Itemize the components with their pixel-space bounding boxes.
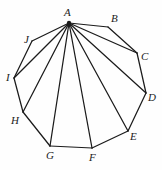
- vertex-label-d: D: [148, 92, 156, 103]
- polygon-edge-EF: [92, 131, 128, 148]
- polygon-edge-BC: [108, 27, 137, 53]
- diagonal-AE: [69, 23, 128, 131]
- apex-vertex-dot: [67, 21, 71, 25]
- polygon-edge-DE: [128, 93, 146, 131]
- vertex-label-b: B: [111, 13, 118, 24]
- vertex-label-i: I: [6, 72, 10, 83]
- diagonal-AC: [69, 23, 137, 53]
- diagonal-AF: [69, 23, 92, 148]
- polygon-edge-FG: [50, 146, 92, 148]
- vertex-label-e: E: [130, 131, 137, 142]
- geometry-figure: ABCDEFGHIJ: [0, 0, 162, 170]
- vertex-label-h: H: [11, 115, 19, 126]
- polygon-edge-JA: [32, 23, 69, 41]
- apex-diagonals-group: [14, 23, 146, 148]
- decagon-diagram-svg: [0, 0, 162, 170]
- vertex-label-f: F: [89, 152, 96, 163]
- polygon-edge-IJ: [14, 41, 32, 78]
- vertex-label-a: A: [64, 7, 71, 18]
- apex-vertex-dot-group: [67, 21, 71, 25]
- vertex-label-g: G: [46, 150, 54, 161]
- vertex-label-j: J: [24, 34, 29, 45]
- vertex-label-c: C: [141, 51, 148, 62]
- polygon-edge-GH: [23, 112, 50, 146]
- diagonal-AI: [14, 23, 69, 78]
- polygon-edge-HI: [14, 78, 23, 112]
